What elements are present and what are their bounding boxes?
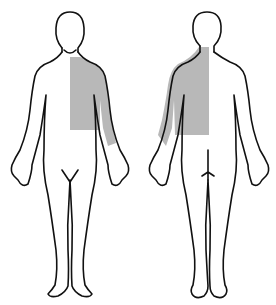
back-head <box>193 12 221 52</box>
front-view <box>11 12 128 297</box>
front-head <box>56 12 84 52</box>
back-view <box>149 12 268 298</box>
body-diagram <box>0 0 276 305</box>
